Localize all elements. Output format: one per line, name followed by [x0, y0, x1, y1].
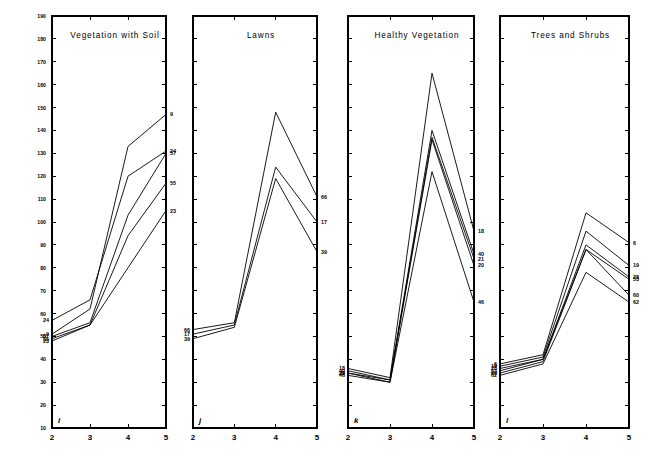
panel-j-xtick-label: 2 — [191, 433, 196, 442]
panel-i-xtick-label: 3 — [88, 433, 93, 442]
y-axis-tick-label: 100 — [37, 219, 46, 225]
panel-l-xtick-label: 4 — [584, 433, 589, 442]
y-axis-tick-label: 190 — [37, 13, 46, 19]
panel-i-right-label-57: 57 — [170, 150, 176, 156]
panel-i-title: Vegetation with Soil — [70, 31, 159, 40]
panel-i-series-55 — [52, 183, 166, 339]
panel-k-series-18 — [348, 73, 474, 377]
y-axis-tick-label: 140 — [37, 127, 46, 133]
panel-i-left-label-23: 23 — [43, 338, 49, 344]
panel-l-xtick-label: 3 — [541, 433, 546, 442]
panel-k-right-label-46: 46 — [478, 299, 484, 305]
panel-l-left-label-62: 62 — [491, 372, 497, 378]
y-axis-tick-label: 90 — [40, 242, 46, 248]
panel-i-right-label-55: 55 — [170, 180, 176, 186]
panel-k-letter: k — [354, 416, 359, 425]
panel-l-series-60 — [500, 249, 629, 373]
y-axis-tick-label: 60 — [40, 311, 46, 317]
panel-j-xtick-label: 3 — [232, 433, 237, 442]
panel-l-right-label-62: 62 — [633, 299, 639, 305]
panel-l-plot-frame — [500, 16, 629, 428]
panel-j-right-label-17: 17 — [321, 219, 327, 225]
y-axis-tick-label: 110 — [38, 196, 46, 202]
y-axis-tick-label: 40 — [40, 356, 46, 362]
panel-k-plot-frame — [348, 16, 474, 428]
panel-l-xtick-label: 2 — [498, 433, 503, 442]
y-axis-tick-label: 130 — [37, 150, 46, 156]
panel-j-xtick-label: 5 — [315, 433, 320, 442]
panel-j-title: Lawns — [247, 31, 275, 40]
panel-l-title: Trees and Shrubs — [531, 31, 610, 40]
panel-l-right-label-53: 53 — [633, 276, 639, 282]
y-axis-tick-label: 180 — [37, 36, 46, 42]
panel-i-xtick-label: 4 — [126, 433, 131, 442]
panel-l-right-label-6: 6 — [633, 240, 636, 246]
panel-j-right-label-39: 39 — [321, 249, 327, 255]
panel-k-right-label-20: 20 — [478, 262, 484, 268]
panel-j-right-label-66: 66 — [321, 194, 327, 200]
panel-k-xtick-label: 5 — [472, 433, 477, 442]
y-axis-tick-label: 20 — [40, 402, 46, 408]
panel-i-xtick-label: 5 — [164, 433, 169, 442]
panel-l-series-19 — [500, 231, 629, 366]
panel-k-series-40 — [348, 130, 474, 379]
y-axis-tick-label: 150 — [37, 105, 46, 111]
panel-k-right-label-18: 18 — [478, 228, 484, 234]
panel-j-series-17 — [193, 167, 317, 334]
panel-l-xtick-label: 5 — [627, 433, 632, 442]
panel-j-xtick-label: 4 — [273, 433, 278, 442]
panel-k-xtick-label: 4 — [430, 433, 435, 442]
panel-l-right-label-19: 19 — [633, 262, 639, 268]
panel-i-xtick-label: 2 — [50, 433, 55, 442]
panel-i-plot-frame — [52, 16, 166, 428]
y-axis-tick-label: 30 — [40, 379, 46, 385]
panel-k-right-label-21: 21 — [478, 256, 484, 262]
y-axis-tick-label: 120 — [37, 173, 46, 179]
panel-i-series-9 — [52, 114, 166, 334]
panel-j-letter: j — [198, 416, 202, 425]
panel-k-series-20 — [348, 140, 474, 383]
panel-k-xtick-label: 3 — [388, 433, 393, 442]
multi-panel-line-chart-figure: 1020304050607080901001101201301401501601… — [0, 0, 648, 459]
panel-i-letter: i — [58, 416, 61, 425]
panel-j-plot-frame — [193, 16, 317, 428]
y-axis-tick-label: 170 — [37, 59, 46, 65]
panel-l-right-label-60: 60 — [633, 292, 639, 298]
panel-i-right-label-9: 9 — [170, 111, 173, 117]
panel-i-series-57 — [52, 153, 166, 336]
panel-l-series-53 — [500, 249, 629, 370]
y-axis-tick-label: 70 — [40, 288, 46, 294]
panel-i-series-23 — [52, 211, 166, 341]
panel-l-letter: l — [506, 416, 509, 425]
panel-j-series-39 — [193, 179, 317, 339]
panel-i-left-label-24: 24 — [43, 317, 49, 323]
panel-j-left-label-39: 39 — [184, 336, 190, 342]
panel-j-series-66 — [193, 112, 317, 329]
chart-canvas: 1020304050607080901001101201301401501601… — [0, 0, 648, 459]
panel-k-title: Healthy Vegetation — [375, 31, 460, 40]
y-axis-tick-label: 80 — [40, 265, 46, 271]
y-axis-tick-label: 160 — [37, 82, 46, 88]
panel-i-right-label-23: 23 — [170, 208, 176, 214]
panel-k-xtick-label: 2 — [346, 433, 351, 442]
panel-k-left-label-46: 46 — [339, 372, 345, 378]
y-axis-tick-label: 10 — [40, 425, 46, 431]
